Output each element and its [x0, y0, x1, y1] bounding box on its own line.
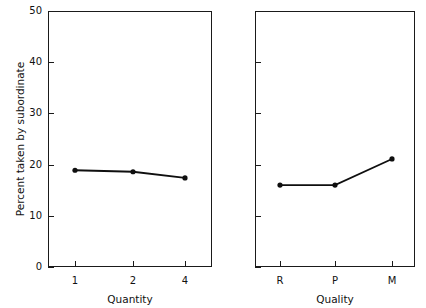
data-point-marker — [182, 175, 187, 180]
data-point-marker — [72, 168, 77, 173]
series-line — [75, 170, 185, 178]
figure-canvas: Percent taken by subordinate 50403020100… — [0, 0, 426, 308]
data-point-marker — [332, 182, 337, 187]
chart-panel-quality: RPM Quality — [225, 0, 426, 308]
series-plot-left — [0, 0, 225, 308]
chart-panel-quantity: Percent taken by subordinate 50403020100… — [0, 0, 225, 308]
data-point-marker — [389, 156, 394, 161]
data-point-marker — [277, 182, 282, 187]
series-plot-right — [225, 0, 426, 308]
data-point-marker — [130, 169, 135, 174]
series-line — [280, 159, 392, 185]
